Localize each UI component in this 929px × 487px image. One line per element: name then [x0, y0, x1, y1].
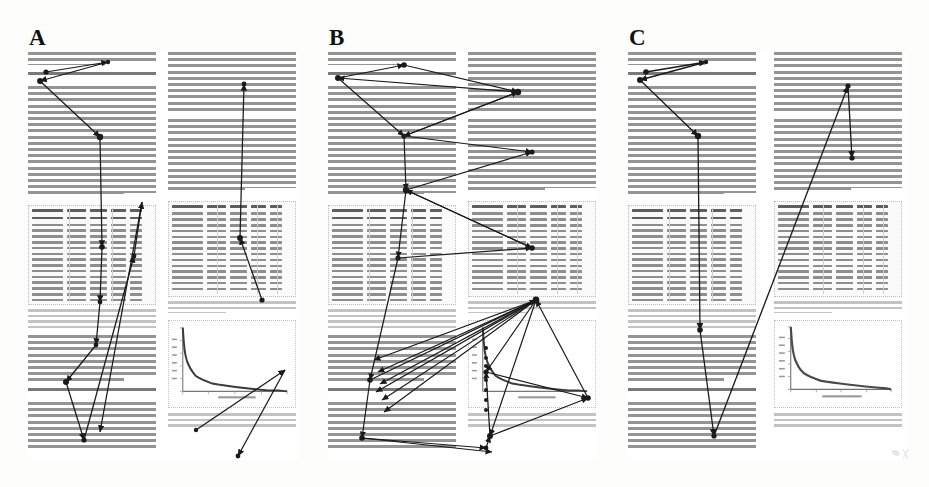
- chart-series-decay: [483, 328, 587, 392]
- table-figure: [468, 201, 596, 297]
- figure-caption: [774, 301, 902, 313]
- table-row: [172, 286, 292, 291]
- table-row: [332, 228, 452, 233]
- text-block-paragraph: [28, 335, 156, 381]
- table-row: [472, 211, 592, 216]
- table-row: [472, 223, 592, 228]
- panel-label-b: B: [329, 25, 344, 51]
- panel-label-a: A: [29, 25, 46, 51]
- table-row: [172, 257, 292, 262]
- table-row: [332, 269, 452, 274]
- chart-xlabel: [218, 396, 255, 398]
- table-row: [32, 286, 152, 291]
- spacer: [468, 191, 596, 201]
- text-block-paragraph: [468, 119, 596, 191]
- table-row: [632, 286, 752, 291]
- table-row: [632, 246, 752, 251]
- table-row: [332, 234, 452, 239]
- scan-artifact-smudge: [889, 447, 915, 465]
- table-figure: [774, 201, 902, 297]
- table-figure: [28, 205, 156, 305]
- text-block-paragraph: [28, 86, 156, 196]
- figure-caption: [628, 309, 756, 331]
- table-figure: [628, 205, 756, 305]
- table-row: [632, 234, 752, 239]
- text-block-paragraph: [328, 402, 456, 452]
- table-row: [778, 286, 898, 291]
- figure-caption: [28, 309, 156, 331]
- table-row: [778, 223, 898, 228]
- table-row: [172, 223, 292, 228]
- text-block-paragraph: [774, 119, 902, 191]
- spacer: [28, 196, 156, 205]
- table-row: [472, 252, 592, 257]
- table-row: [472, 234, 592, 239]
- decay-curve-chart: [169, 321, 295, 407]
- spacer: [28, 395, 156, 402]
- figure-caption: [168, 301, 296, 313]
- left-column: [328, 52, 456, 452]
- table-row: [332, 298, 452, 303]
- table-row: [32, 240, 152, 245]
- table-row: [632, 298, 752, 303]
- chart-xlabel: [822, 395, 861, 397]
- figure-caption: [468, 413, 596, 430]
- decay-curve-chart: [469, 321, 595, 407]
- text-block-heading: [28, 388, 156, 395]
- text-block-heading: [328, 72, 456, 79]
- table-row: [332, 292, 452, 297]
- spacer: [628, 65, 756, 72]
- figure-caption: [774, 413, 902, 430]
- table-row: [778, 211, 898, 216]
- table-row: [778, 246, 898, 251]
- text-block-paragraph: [168, 52, 296, 114]
- table-row: [172, 246, 292, 251]
- text-block-paragraph: [774, 52, 902, 114]
- table-row: [172, 269, 292, 274]
- table-row: [332, 246, 452, 251]
- text-block-paragraph: [628, 335, 756, 381]
- table-row: [172, 234, 292, 239]
- table-row: [32, 222, 152, 227]
- table-row: [632, 292, 752, 297]
- table-row: [172, 281, 292, 286]
- table-row: [472, 257, 592, 262]
- table-row: [632, 274, 752, 279]
- text-block-heading: [628, 72, 756, 79]
- table-row: [632, 269, 752, 274]
- table-row: [172, 229, 292, 234]
- table-row: [472, 286, 592, 291]
- right-column: [774, 52, 902, 430]
- table-row: [32, 257, 152, 262]
- spacer: [328, 196, 456, 205]
- table-row: [172, 240, 292, 245]
- table-row: [172, 217, 292, 222]
- panel-a: A: [0, 0, 310, 487]
- text-block-paragraph: [628, 52, 756, 65]
- chart-series-decay: [791, 327, 891, 390]
- table-row: [632, 263, 752, 268]
- table-row: [472, 275, 592, 280]
- spacer: [628, 395, 756, 402]
- decay-curve-chart: [775, 321, 901, 407]
- spacer: [28, 79, 156, 86]
- spacer: [328, 79, 456, 86]
- table-row: [778, 217, 898, 222]
- text-block-paragraph: [628, 402, 756, 452]
- table-row: [632, 257, 752, 262]
- table-row: [332, 263, 452, 268]
- chart-figure: [468, 320, 596, 408]
- chart-series-decay: [183, 328, 287, 392]
- spacer: [774, 313, 902, 320]
- table-row: [778, 263, 898, 268]
- table-figure: [168, 201, 296, 297]
- table-row: [32, 269, 152, 274]
- table-row: [778, 275, 898, 280]
- table-row: [472, 246, 592, 251]
- document-page-c: [628, 52, 906, 460]
- left-column: [628, 52, 756, 452]
- table-row: [472, 281, 592, 286]
- text-block-heading: [28, 72, 156, 79]
- text-block-heading: [628, 388, 756, 395]
- table-row: [778, 252, 898, 257]
